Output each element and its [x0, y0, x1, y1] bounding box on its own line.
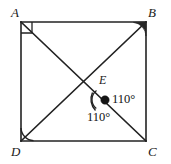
vertex-label-c: C — [148, 145, 157, 158]
geometry-canvas — [0, 0, 171, 164]
geometry-figure: A B C D E 110° 110° — [0, 0, 171, 164]
angle-label-e-right: 110° — [112, 93, 135, 106]
vertex-label-d: D — [11, 145, 20, 158]
vertex-dot-E — [101, 96, 109, 104]
angle-label-e-lower: 110° — [87, 111, 110, 124]
vertex-label-e: E — [99, 74, 106, 86]
vertex-label-a: A — [11, 6, 19, 19]
vertex-label-b: B — [148, 6, 156, 19]
